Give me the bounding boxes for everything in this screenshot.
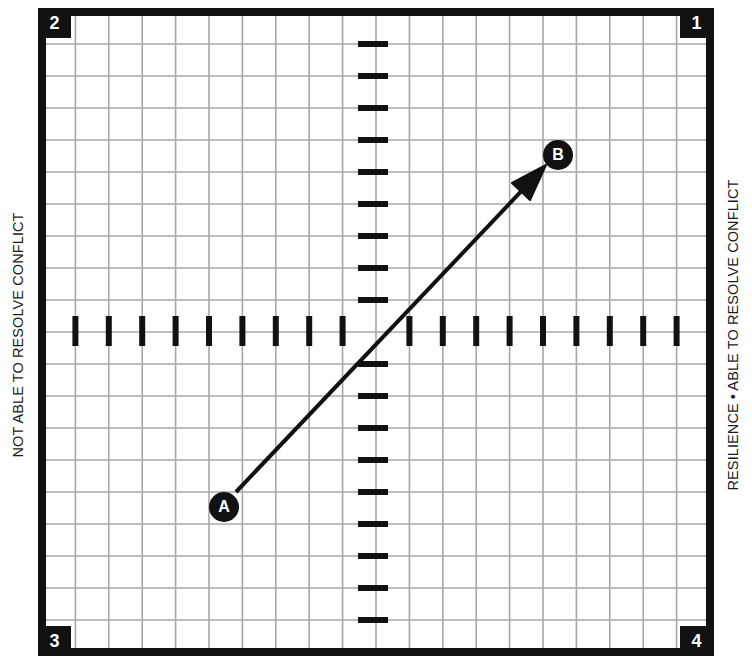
quadrant-diagram: NOT ABLE TO RESOLVE CONFLICT RESILIENCE … <box>0 0 752 668</box>
grid-canvas <box>0 0 752 668</box>
quadrant-4-badge: 4 <box>680 626 713 656</box>
point-a-marker: A <box>209 492 239 522</box>
left-axis-label: NOT ABLE TO RESOLVE CONFLICT <box>10 212 26 457</box>
quadrant-1-badge: 1 <box>680 8 713 38</box>
point-b-marker: B <box>543 140 573 170</box>
quadrant-3-badge: 3 <box>38 626 71 656</box>
quadrant-2-badge: 2 <box>38 8 71 38</box>
arrow-a-to-b <box>236 165 546 492</box>
right-axis-label: RESILIENCE • ABLE TO RESOLVE CONFLICT <box>725 180 741 491</box>
